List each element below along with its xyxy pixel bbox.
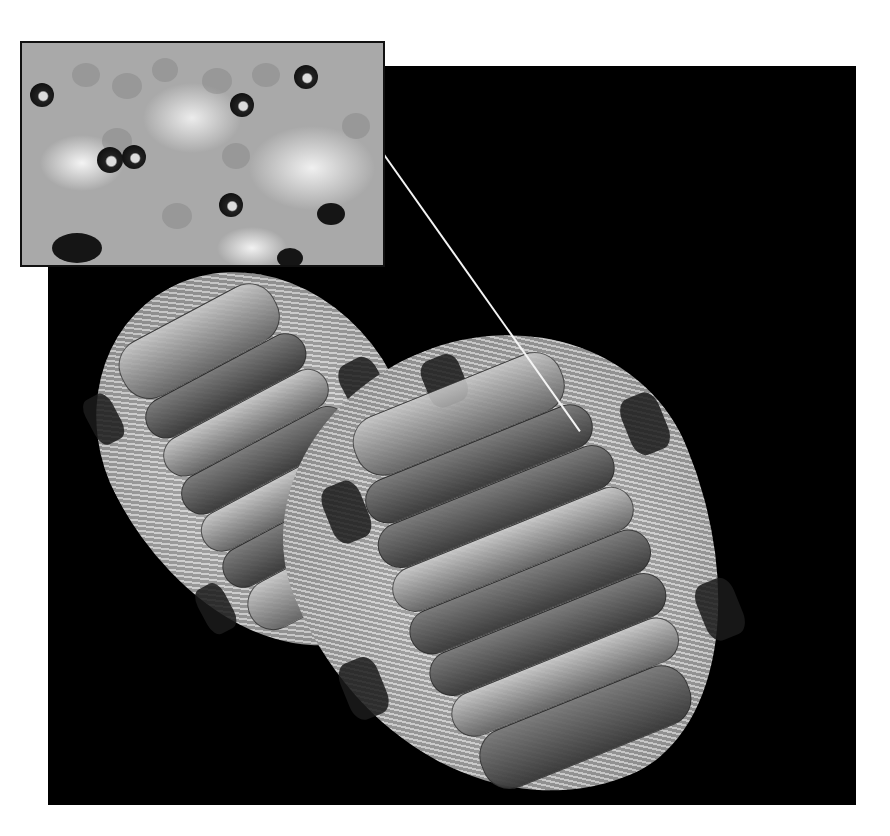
dark-spot	[52, 233, 102, 263]
granule	[222, 143, 250, 169]
ocellus	[230, 93, 254, 117]
granule	[162, 203, 192, 229]
ocellus	[97, 147, 123, 173]
granule	[202, 68, 232, 94]
granule	[342, 113, 370, 139]
magnified-inset	[20, 41, 385, 267]
ocellus	[122, 145, 146, 169]
granule	[72, 63, 100, 87]
granule	[152, 58, 178, 82]
ocellus	[30, 83, 54, 107]
ocellus	[219, 193, 243, 217]
dark-spot	[317, 203, 345, 225]
dark-spot	[277, 248, 303, 267]
granule	[252, 63, 280, 87]
ocellus	[294, 65, 318, 89]
granule	[112, 73, 142, 99]
clipped-caption	[20, 829, 270, 836]
